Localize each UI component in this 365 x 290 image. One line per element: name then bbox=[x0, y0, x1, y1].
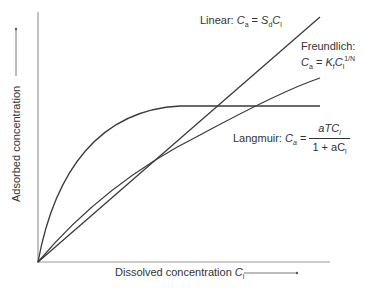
langmuir-fraction: aTCl 1 + aCl bbox=[309, 122, 349, 155]
langmuir-label: Langmuir: bbox=[233, 132, 282, 144]
langmuir-den-sub: l bbox=[345, 148, 347, 155]
y-axis-arrow-head bbox=[15, 28, 17, 30]
freundlich-label: Freundlich: bbox=[301, 40, 355, 52]
langmuir-annotation: Langmuir: Ca = aTCl 1 + aCl bbox=[233, 122, 350, 155]
y-axis-label-text: Adsorbed concentration bbox=[10, 86, 22, 202]
x-axis-arrow-head bbox=[296, 272, 298, 274]
langmuir-num-text: aTC bbox=[318, 122, 339, 134]
freundlich-rhs2: C bbox=[335, 56, 343, 68]
freundlich-equation: Ca = KfCl1/N bbox=[301, 55, 355, 70]
langmuir-num-sub: l bbox=[339, 129, 341, 136]
x-axis-label-text: Dissolved concentration bbox=[115, 266, 232, 278]
langmuir-den-text: 1 + aC bbox=[312, 141, 345, 153]
y-axis-label: Adsorbed concentration bbox=[10, 86, 22, 202]
freundlich-lhs: C bbox=[301, 56, 309, 68]
langmuir-numerator: aTCl bbox=[309, 122, 349, 139]
linear-rhs2-sub: l bbox=[280, 21, 282, 28]
x-axis-symbol: C bbox=[235, 266, 243, 278]
langmuir-lhs: C bbox=[285, 132, 293, 144]
freundlich-rhs1: K bbox=[325, 56, 332, 68]
linear-label: Linear: bbox=[200, 14, 234, 26]
langmuir-eq: = bbox=[297, 132, 310, 144]
x-axis-symbol-sub: l bbox=[243, 273, 245, 280]
freundlich-annotation: Freundlich: bbox=[301, 40, 355, 52]
freundlich-eq: = bbox=[313, 56, 326, 68]
x-axis-label: Dissolved concentration Cl bbox=[115, 266, 244, 280]
linear-eq: = bbox=[249, 14, 262, 26]
freundlich-rhs2-sub: l bbox=[343, 63, 345, 70]
linear-annotation: Linear: Ca = SdCl bbox=[200, 14, 282, 28]
freundlich-exponent: 1/N bbox=[344, 55, 355, 62]
langmuir-denominator: 1 + aCl bbox=[309, 139, 349, 155]
linear-lhs: C bbox=[237, 14, 245, 26]
